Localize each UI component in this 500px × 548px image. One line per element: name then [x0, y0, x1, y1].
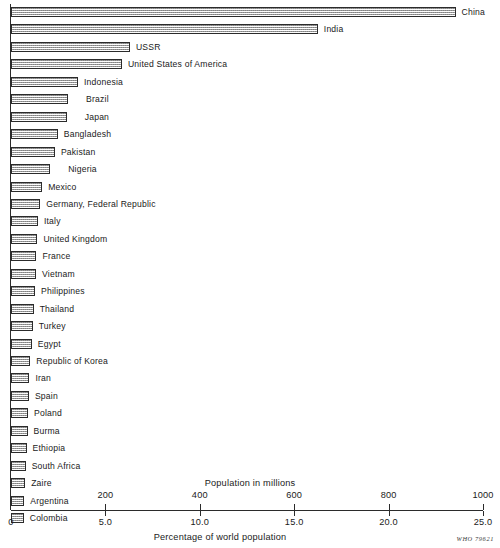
bar [11, 216, 38, 226]
tick-mark-millions [200, 504, 201, 510]
bar-category-label: India [324, 22, 344, 39]
bar-category-label: Thailand [40, 302, 75, 319]
tick-mark-millions [389, 504, 390, 510]
tick-mark-percent [389, 511, 390, 516]
bar [11, 24, 318, 34]
bar [11, 59, 122, 69]
bar-row: United States of America [0, 57, 500, 74]
tick-mark-millions [483, 504, 484, 510]
bar [11, 408, 28, 418]
tick-mark-percent [200, 511, 201, 516]
tick-label-millions: 400 [192, 490, 208, 500]
bar-row: USSR [0, 40, 500, 57]
bar-row: Italy [0, 214, 500, 231]
bar-category-label: United States of America [128, 57, 227, 74]
bar-row: Ethiopia [0, 441, 500, 458]
bar-row: Germany, Federal Republic [0, 197, 500, 214]
bar [11, 339, 32, 349]
bar-row: Turkey [0, 319, 500, 336]
axis-title-population-millions: Population in millions [0, 478, 500, 488]
bar-row: Pakistan [0, 145, 500, 162]
bar [11, 77, 78, 87]
bar-category-label: Nigeria [68, 162, 97, 179]
bar [11, 269, 36, 279]
bar-row: France [0, 249, 500, 266]
bar [11, 42, 130, 52]
tick-mark-millions [105, 504, 106, 510]
bar-row: Mexico [0, 180, 500, 197]
axis-title-percentage: Percentage of world population [0, 532, 440, 542]
bar-category-label: Spain [35, 389, 58, 406]
bar-row: Nigeria [0, 162, 500, 179]
bar [11, 251, 36, 261]
bar-category-label: Egypt [38, 337, 61, 354]
bar-row: China [0, 5, 500, 22]
tick-mark-percent [483, 511, 484, 516]
bar-category-label: United Kingdom [43, 232, 107, 249]
bar-category-label: Pakistan [61, 145, 96, 162]
bar-category-label: Burma [34, 424, 60, 441]
bar [11, 7, 456, 17]
bar-row: Spain [0, 389, 500, 406]
bar-category-label: USSR [136, 40, 161, 57]
tick-label-millions: 1000 [472, 490, 493, 500]
bar-category-label: Poland [34, 406, 62, 423]
tick-label-percent: 20.0 [379, 517, 398, 527]
bar-category-label: France [42, 249, 70, 266]
tick-mark-millions [294, 504, 295, 510]
bar-row: Iran [0, 371, 500, 388]
bar-row: Vietnam [0, 267, 500, 284]
tick-label-millions: 600 [286, 490, 302, 500]
tick-mark-percent [294, 511, 295, 516]
bar-category-label: Germany, Federal Republic [46, 197, 155, 214]
bar-category-label: Bangladesh [64, 127, 111, 144]
tick-label-percent: 15.0 [285, 517, 304, 527]
bar-row: Egypt [0, 337, 500, 354]
tick-label-percent: 25.0 [474, 517, 493, 527]
who-source-code: WHO 79621 [456, 535, 494, 542]
bar-row: United Kingdom [0, 232, 500, 249]
population-bar-chart: ChinaIndiaUSSRUnited States of AmericaIn… [0, 0, 500, 548]
bar-category-label: Iran [35, 371, 51, 388]
bar-category-label: Republic of Korea [36, 354, 108, 371]
bar-category-label: Philippines [41, 284, 85, 301]
bar-row: Philippines [0, 284, 500, 301]
bars-plot-area: ChinaIndiaUSSRUnited States of AmericaIn… [0, 0, 500, 502]
tick-label-percent: 0 [8, 517, 13, 527]
bar [11, 199, 40, 209]
bar [11, 443, 27, 453]
tick-label-percent: 10.0 [190, 517, 209, 527]
bar-category-label: Brazil [86, 92, 109, 109]
bar-row: Indonesia [0, 75, 500, 92]
bar-category-label: Italy [44, 214, 61, 231]
bar [11, 129, 58, 139]
bar-category-label: Indonesia [84, 75, 123, 92]
value-axis-line [11, 510, 483, 511]
tick-mark-percent [105, 511, 106, 516]
bar [11, 286, 35, 296]
bar [11, 112, 67, 122]
bar-row: Republic of Korea [0, 354, 500, 371]
bar-category-label: Vietnam [42, 267, 75, 284]
bar-category-label: Mexico [48, 180, 76, 197]
bar [11, 182, 42, 192]
bar-row: Poland [0, 406, 500, 423]
tick-label-millions: 800 [381, 490, 397, 500]
bar-row: Japan [0, 110, 500, 127]
bar [11, 426, 28, 436]
bar [11, 234, 37, 244]
bar-row: Bangladesh [0, 127, 500, 144]
bar-row: Brazil [0, 92, 500, 109]
bar-category-label: Japan [85, 110, 109, 127]
bar-row: Burma [0, 424, 500, 441]
value-axis-block: Population in millions Percentage of wor… [0, 470, 500, 548]
bar [11, 304, 34, 314]
bar [11, 164, 50, 174]
bar [11, 356, 30, 366]
bar [11, 321, 33, 331]
bar-row: India [0, 22, 500, 39]
bar [11, 147, 55, 157]
tick-label-millions: 200 [97, 490, 113, 500]
bar-category-label: Ethiopia [33, 441, 66, 458]
bar [11, 373, 29, 383]
